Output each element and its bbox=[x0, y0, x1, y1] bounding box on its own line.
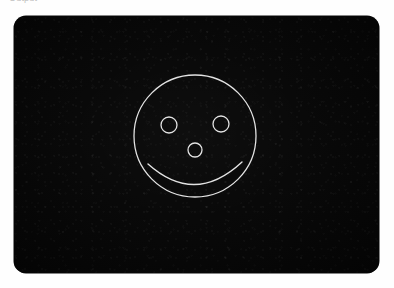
page-canvas: Output bbox=[0, 0, 394, 288]
nose-circle bbox=[188, 143, 202, 157]
dark-drawing-board bbox=[14, 16, 379, 273]
smile-arc bbox=[148, 162, 242, 185]
caption-text: Output bbox=[9, 0, 37, 3]
face-outline-circle bbox=[134, 75, 256, 197]
left-eye-circle bbox=[161, 117, 177, 133]
smiley-face-drawing bbox=[14, 16, 379, 273]
right-eye-circle bbox=[213, 116, 229, 132]
